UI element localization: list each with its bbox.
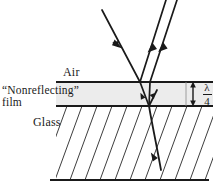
quarter-wavelength-label: λ 4 <box>199 82 215 107</box>
air-label: Air <box>63 66 80 79</box>
glass-hatching <box>40 106 216 180</box>
lambda-symbol: λ <box>199 82 215 94</box>
glass-label: Glass <box>33 116 61 129</box>
film-layer-fill <box>56 82 213 106</box>
incident-ray <box>102 10 140 82</box>
nonreflecting-film-label: “Nonreflecting” film <box>2 84 79 108</box>
reflected-ray-top-surface <box>140 0 166 82</box>
reflected-ray-bottom-surface <box>150 0 177 82</box>
nonreflecting-film-label-line1: “Nonreflecting” <box>2 84 79 96</box>
transmitted-ray <box>149 106 161 170</box>
fraction-denominator: 4 <box>199 95 215 107</box>
nonreflecting-film-diagram: Air “Nonreflecting” film Glass λ 4 <box>0 0 216 191</box>
nonreflecting-film-label-line2: film <box>2 96 79 108</box>
internal-ray-up-extension <box>149 82 150 106</box>
